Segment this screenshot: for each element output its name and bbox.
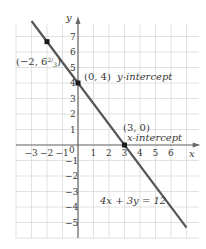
x-tick-label: −3 — [25, 148, 39, 158]
x-tick-label: 5 — [153, 148, 159, 158]
point3-annotation: x-intercept — [127, 132, 183, 143]
point2-annotation: y-intercept — [116, 71, 173, 82]
point1-label: (−2, 62/3) — [16, 56, 61, 68]
y-tick-label: 2 — [70, 109, 76, 119]
y-tick-label: −5 — [65, 218, 79, 228]
equation-label: 4x + 3y = 12 — [99, 195, 166, 206]
x-axis-arrow-icon — [193, 143, 201, 148]
x-tick-label: 2 — [106, 148, 112, 158]
x-axis-label: x — [189, 148, 195, 159]
data-point-marker — [76, 81, 81, 86]
y-tick-label: −4 — [65, 202, 79, 212]
y-tick-label: −1 — [65, 156, 78, 166]
x-tick-label: 4 — [137, 148, 143, 158]
data-point-marker — [45, 39, 50, 44]
y-tick-label: 7 — [70, 32, 76, 42]
y-tick-label: −3 — [65, 187, 79, 197]
y-tick-label: 3 — [70, 94, 76, 104]
x-tick-label: 1 — [91, 148, 97, 158]
y-tick-label: 5 — [70, 63, 76, 73]
y-axis-label: y — [65, 12, 72, 23]
x-tick-label: 6 — [168, 148, 174, 158]
data-point-marker — [122, 143, 127, 148]
y-tick-label: 1 — [70, 125, 76, 135]
y-tick-label: 6 — [70, 47, 76, 57]
y-tick-label: −2 — [65, 171, 78, 181]
x-tick-label: −2 — [40, 148, 53, 158]
point2-label: (0, 4) — [84, 71, 111, 82]
y-axis-arrow-icon — [76, 16, 81, 24]
x-tick-label: 0 — [69, 145, 75, 155]
chart-canvas: −3−2−101234567654321−1−2−3−4−5 y x (−2, … — [0, 0, 206, 249]
